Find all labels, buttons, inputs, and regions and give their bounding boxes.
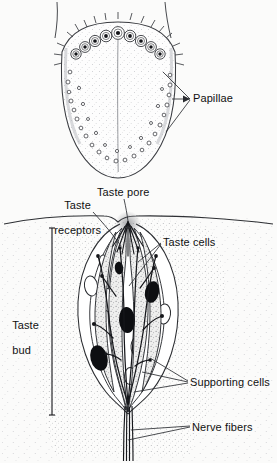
label-taste-bud-line2: bud	[12, 344, 31, 356]
label-taste-bud-line1: Taste	[12, 319, 39, 331]
tongue-body	[61, 22, 175, 178]
label-papillae: Papillae	[193, 92, 233, 105]
tongue-surface-panel	[54, 2, 190, 183]
label-nerve-fibers: Nerve fibers	[192, 421, 253, 434]
label-taste-receptors-line2: receptors	[54, 224, 101, 236]
label-taste-receptors-line1: Taste	[64, 199, 91, 211]
anatomy-figure	[0, 0, 277, 463]
label-supporting-cells: Supporting cells	[190, 376, 270, 389]
label-taste-pore: Taste pore	[97, 186, 149, 199]
label-taste-receptors: Taste receptors	[48, 186, 101, 236]
label-taste-cells: Taste cells	[163, 236, 215, 249]
label-taste-bud: Taste bud	[6, 306, 39, 356]
